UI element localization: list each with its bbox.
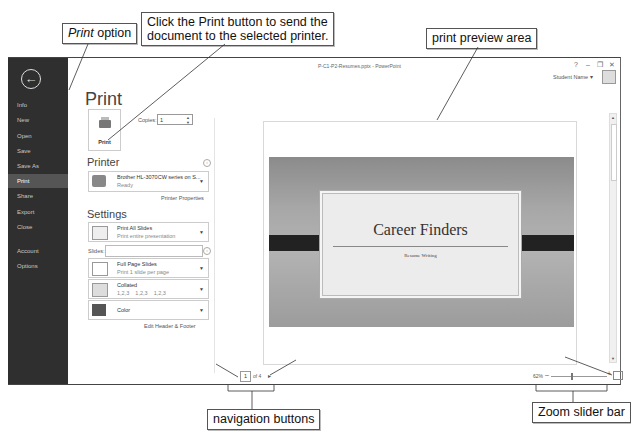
slide-rule	[333, 246, 508, 247]
nav-item-open[interactable]: Open	[8, 129, 68, 143]
print-all-slides-dropdown[interactable]: Print All Slides Print entire presentati…	[88, 222, 209, 242]
slide-preview: Career Finders Resume Writing	[269, 157, 574, 327]
nav-item-share[interactable]: Share	[8, 189, 68, 203]
zoom-level[interactable]: 62%	[533, 373, 543, 379]
close-button[interactable]: ✕	[609, 61, 615, 69]
callout-print-option: Print option	[62, 23, 137, 44]
chevron-down-icon: ▼	[199, 229, 204, 235]
zoom-slider[interactable]	[551, 376, 607, 377]
slides-icon	[92, 226, 108, 240]
spinner-arrows-icon[interactable]: ▲▼	[186, 115, 190, 125]
slide-accent-bar-right	[519, 235, 574, 251]
nav-item-info[interactable]: Info	[8, 98, 68, 112]
slides-input[interactable]	[105, 245, 203, 257]
callout-print-button: Click the Print button to send thedocume…	[141, 12, 334, 46]
callout-preview-area: print preview area	[426, 28, 537, 49]
chevron-down-icon: ▼	[199, 307, 204, 313]
info-icon[interactable]: i	[203, 159, 211, 167]
user-account[interactable]: Student Name ▾	[553, 74, 593, 80]
edit-header-footer-link[interactable]: Edit Header & Footer	[144, 323, 196, 329]
collated-icon	[92, 283, 108, 297]
avatar[interactable]	[602, 70, 616, 84]
settings-heading: Settings	[87, 208, 127, 220]
nav-item-save-as[interactable]: Save As	[8, 159, 68, 173]
powerpoint-window: ← Info New Open Save Save As Print Share…	[8, 57, 621, 385]
scroll-up-icon[interactable]: ▲	[610, 115, 616, 120]
page-title: Print	[85, 89, 122, 110]
printer-dropdown[interactable]: Brother HL-3070CW series on S... Ready ▼	[88, 171, 209, 192]
slides-label: Slides:	[88, 248, 105, 254]
zoom-in-button[interactable]: +	[607, 370, 611, 377]
printer-heading: Printer	[87, 156, 119, 168]
color-dropdown[interactable]: Color ▼	[88, 300, 209, 320]
zoom-out-button[interactable]: –	[545, 371, 549, 378]
full-page-icon	[92, 262, 108, 276]
current-page-input[interactable]: 1	[240, 371, 251, 382]
slide-title: Career Finders	[323, 221, 518, 239]
help-button[interactable]: ?	[574, 61, 578, 68]
scroll-thumb[interactable]	[611, 124, 617, 181]
chevron-down-icon: ▼	[199, 286, 204, 292]
info-icon[interactable]: i	[203, 247, 211, 255]
callout-zoom-slider: Zoom slider bar	[532, 402, 631, 423]
scroll-down-icon[interactable]: ▼	[610, 356, 616, 361]
print-button[interactable]: Print	[88, 109, 121, 151]
nav-item-print[interactable]: Print	[8, 174, 68, 188]
back-arrow-icon[interactable]: ←	[21, 69, 41, 89]
next-page-button[interactable]: ▸	[268, 372, 271, 379]
nav-item-options[interactable]: Options	[8, 259, 68, 273]
minimize-button[interactable]: –	[586, 61, 590, 68]
nav-item-save[interactable]: Save	[8, 144, 68, 158]
panel-divider	[214, 118, 215, 373]
zoom-slider-thumb[interactable]	[571, 373, 573, 380]
collated-dropdown[interactable]: Collated 1,2,3 1,2,3 1,2,3 ▼	[88, 279, 209, 299]
copies-label: Copies:	[138, 117, 157, 123]
callout-navigation: navigation buttons	[207, 409, 320, 430]
restore-button[interactable]: ❐	[597, 61, 603, 69]
printer-icon	[99, 120, 111, 128]
nav-item-export[interactable]: Export	[8, 205, 68, 219]
color-swatch-icon	[92, 304, 106, 316]
nav-item-close[interactable]: Close	[8, 220, 68, 234]
chevron-down-icon: ▼	[199, 265, 204, 271]
page-count: of 4	[253, 373, 261, 379]
slide-title-box: Career Finders Resume Writing	[322, 193, 519, 296]
vertical-scrollbar[interactable]: ▲ ▼	[609, 113, 617, 363]
print-preview-page: Career Finders Resume Writing	[263, 121, 577, 365]
printer-icon	[92, 175, 106, 187]
copies-stepper[interactable]: 1 ▲▼	[157, 114, 193, 125]
nav-item-new[interactable]: New	[8, 113, 68, 127]
nav-item-account[interactable]: Account	[8, 244, 68, 258]
chevron-down-icon: ▼	[199, 178, 204, 184]
zoom-to-page-icon[interactable]	[613, 371, 623, 380]
printer-properties-link[interactable]: Printer Properties	[161, 195, 204, 201]
slide-accent-bar-left	[269, 235, 324, 251]
window-title: P-C1-P2-Resumes.pptx - PowerPoint	[318, 63, 401, 69]
backstage-nav: ← Info New Open Save Save As Print Share…	[8, 58, 68, 384]
slide-subtitle: Resume Writing	[323, 253, 518, 258]
full-page-slides-dropdown[interactable]: Full Page Slides Print 1 slide per page …	[88, 258, 209, 278]
